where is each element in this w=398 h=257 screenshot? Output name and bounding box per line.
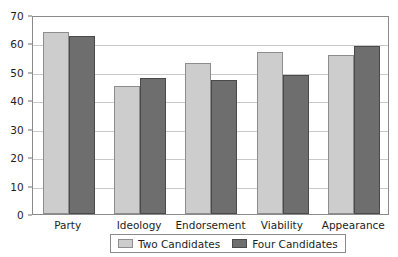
y-tick-label: 20 xyxy=(10,152,24,164)
bar-group xyxy=(247,17,318,214)
bar-four-candidates xyxy=(211,80,237,214)
legend-entry: Four Candidates xyxy=(232,238,338,250)
bar-two-candidates xyxy=(257,52,283,214)
legend-label: Four Candidates xyxy=(252,238,338,250)
bar-four-candidates xyxy=(354,46,380,214)
x-tick-label: Endorsement xyxy=(175,219,245,231)
bar-group xyxy=(33,17,104,214)
chart-legend: Two CandidatesFour Candidates xyxy=(110,234,346,253)
y-tick-label: 30 xyxy=(10,124,24,136)
legend-entry: Two Candidates xyxy=(118,238,220,250)
bar-four-candidates xyxy=(283,75,309,214)
plot-frame xyxy=(32,16,389,215)
y-tick-label: 50 xyxy=(10,67,24,79)
bar-four-candidates xyxy=(69,36,95,214)
bar-group xyxy=(176,17,247,214)
bar-group xyxy=(319,17,390,214)
bar-two-candidates xyxy=(328,55,354,214)
plot-area xyxy=(33,17,388,214)
dark-gray-swatch xyxy=(232,239,247,248)
bar-four-candidates xyxy=(140,78,166,214)
bar-two-candidates xyxy=(43,32,69,214)
y-axis: 010203040506070 xyxy=(0,0,32,257)
y-tick-label: 10 xyxy=(10,181,24,193)
y-tick-label: 60 xyxy=(10,38,24,50)
bar-chart: 010203040506070 PartyIdeologyEndorsement… xyxy=(0,0,398,257)
x-tick-label: Viability xyxy=(261,219,303,231)
y-tick-label: 40 xyxy=(10,95,24,107)
x-tick-label: Party xyxy=(54,219,81,231)
legend-label: Two Candidates xyxy=(138,238,220,250)
bar-group xyxy=(104,17,175,214)
y-tick-label: 0 xyxy=(17,209,24,221)
bar-two-candidates xyxy=(185,63,211,214)
x-tick-label: Appearance xyxy=(322,219,385,231)
y-tick-label: 70 xyxy=(10,10,24,22)
x-tick-label: Ideology xyxy=(117,219,162,231)
light-gray-swatch xyxy=(118,239,133,248)
bar-two-candidates xyxy=(114,86,140,214)
